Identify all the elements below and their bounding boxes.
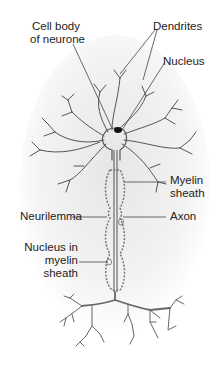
label-cell-body-line1: Cell body [30, 20, 85, 33]
label-nucleus-myelin-line2: myelin [20, 254, 78, 267]
label-myelin-sheath: Myelin sheath [170, 174, 205, 200]
label-myelin-line1: Myelin [170, 174, 205, 187]
label-myelin-line2: sheath [170, 187, 205, 200]
label-dendrites: Dendrites [153, 20, 202, 33]
label-nucleus-myelin-line3: sheath [20, 267, 78, 280]
label-neurilemma: Neurilemma [20, 210, 82, 223]
label-axon: Axon [170, 210, 196, 223]
label-nucleus: Nucleus [163, 55, 205, 68]
label-nucleus-in-myelin-sheath: Nucleus in myelin sheath [20, 241, 78, 280]
label-nucleus-myelin-line1: Nucleus in [20, 241, 78, 254]
label-cell-body-line2: of neurone [30, 33, 85, 46]
label-cell-body: Cell body of neurone [30, 20, 85, 46]
nucleus [114, 127, 122, 133]
